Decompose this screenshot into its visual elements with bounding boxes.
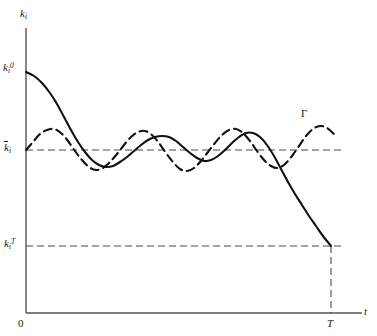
capital-path-figure: ki t 0 ki0 ki kiT T Γ xyxy=(0,0,377,336)
steady-state-label: ki xyxy=(4,142,11,153)
x-axis-label: t xyxy=(364,306,367,317)
steady-state-overbar-group: k xyxy=(4,142,9,153)
initial-capital-sup: 0 xyxy=(10,61,14,70)
steady-state-base: k xyxy=(4,141,9,153)
origin-label: 0 xyxy=(18,318,24,329)
initial-capital-label: ki0 xyxy=(3,62,14,73)
reference-lines-group xyxy=(26,150,345,313)
divergent-path-label: Γ xyxy=(301,108,307,119)
y-axis-label-sub: i xyxy=(25,12,27,21)
y-axis-label: ki xyxy=(20,8,27,19)
terminal-time-label: T xyxy=(327,318,333,329)
terminal-capital-sup: T xyxy=(11,237,15,246)
steady-state-sub: i xyxy=(9,146,11,155)
terminal-capital-label: kiT xyxy=(4,238,15,249)
overbar-glyph xyxy=(4,141,8,142)
axes-group xyxy=(26,28,362,313)
plot-canvas xyxy=(0,0,377,336)
curve-optimal-path xyxy=(26,72,331,246)
